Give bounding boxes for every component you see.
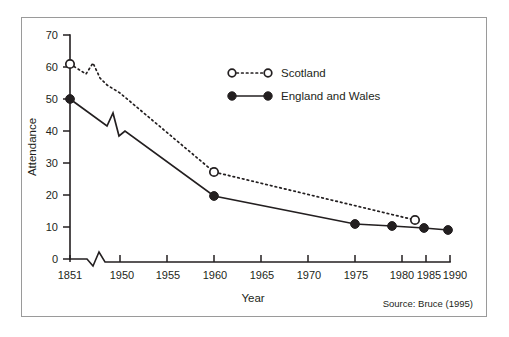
- legend-scotland-marker-right: [264, 69, 272, 77]
- x-tick-label-1990: 1990: [443, 269, 467, 281]
- x-tick-label-1970: 1970: [297, 269, 321, 281]
- england-point-1975: [351, 220, 360, 229]
- england-point-1960: [210, 192, 219, 201]
- england-point-1989: [444, 226, 453, 235]
- y-tick-label-0: 0: [52, 253, 58, 265]
- scotland-line: [70, 63, 415, 220]
- line-chart-canvas: 70 60 50 40 30 20 10 0 Attendance: [0, 0, 509, 337]
- legend-label-scotland: Scotland: [281, 67, 326, 79]
- y-axis: 70 60 50 40 30 20 10 0 Attendance: [26, 29, 70, 265]
- legend-england-marker-left: [228, 92, 236, 100]
- y-tick-label-60: 60: [46, 61, 58, 73]
- series-scotland: [66, 60, 419, 224]
- y-axis-tick-labels: 70 60 50 40 30 20 10 0: [46, 29, 58, 265]
- legend-scotland-marker-left: [228, 69, 236, 77]
- series-england-and-wales: [66, 95, 453, 235]
- y-tick-label-50: 50: [46, 93, 58, 105]
- legend-label-england-and-wales: England and Wales: [281, 90, 381, 102]
- source-note: Source: Bruce (1995): [383, 298, 473, 309]
- legend-england-marker-right: [264, 92, 272, 100]
- x-tick-label-1975: 1975: [344, 269, 368, 281]
- england-and-wales-line: [70, 99, 448, 230]
- chart-figure: 70 60 50 40 30 20 10 0 Attendance: [0, 0, 509, 337]
- x-tick-label-1960: 1960: [203, 269, 227, 281]
- y-tick-label-70: 70: [46, 29, 58, 41]
- scotland-point-1960: [210, 168, 218, 176]
- x-tick-label-1985: 1985: [417, 269, 441, 281]
- y-tick-label-30: 30: [46, 157, 58, 169]
- x-axis-title: Year: [241, 292, 264, 304]
- y-tick-label-10: 10: [46, 221, 58, 233]
- x-tick-label-1965: 1965: [250, 269, 274, 281]
- x-tick-label-1851: 1851: [58, 269, 82, 281]
- legend-entry-scotland[interactable]: Scotland: [228, 67, 326, 79]
- x-tick-label-1980: 1980: [390, 269, 414, 281]
- x-axis: 1851 1950 1955 1960 1965 1970 1975 1980 …: [58, 252, 467, 304]
- england-point-1979: [388, 222, 397, 231]
- y-axis-title: Attendance: [26, 118, 38, 176]
- x-axis-line-with-break: [70, 252, 450, 266]
- x-axis-ticks: [70, 255, 450, 262]
- scotland-point-1851: [66, 60, 74, 68]
- x-tick-label-1950: 1950: [110, 269, 134, 281]
- scotland-point-1984: [411, 216, 419, 224]
- x-tick-label-1955: 1955: [156, 269, 180, 281]
- y-tick-label-40: 40: [46, 125, 58, 137]
- england-point-1984: [420, 224, 429, 233]
- england-point-1851: [66, 95, 75, 104]
- y-tick-label-20: 20: [46, 189, 58, 201]
- chart-legend: Scotland England and Wales: [228, 67, 381, 102]
- x-axis-tick-labels: 1851 1950 1955 1960 1965 1970 1975 1980 …: [58, 269, 467, 281]
- legend-entry-england-and-wales[interactable]: England and Wales: [228, 90, 381, 102]
